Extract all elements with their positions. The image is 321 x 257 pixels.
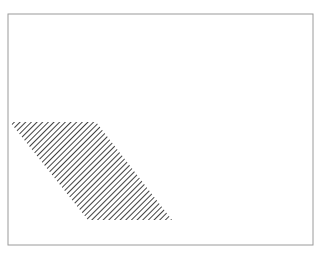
figure-svg	[0, 0, 321, 257]
figure-canvas	[0, 0, 321, 257]
